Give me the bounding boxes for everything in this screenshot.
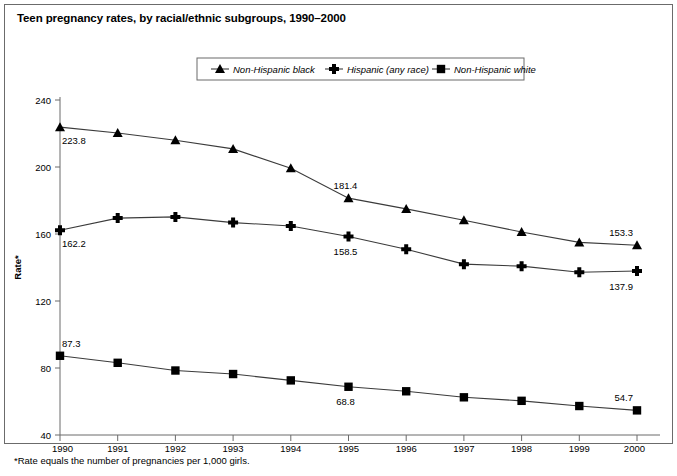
y-tick-label: 160 xyxy=(35,229,51,240)
x-tick-label: 1999 xyxy=(569,443,590,454)
data-point-star-marker xyxy=(517,261,527,271)
data-point-label: 153.3 xyxy=(609,227,633,238)
data-point-square-marker xyxy=(171,366,179,374)
data-point-label: 158.5 xyxy=(334,246,358,257)
x-tick-label: 1994 xyxy=(280,443,301,454)
legend-label: Hispanic (any race) xyxy=(347,64,429,75)
x-tick-label: 1990 xyxy=(52,443,73,454)
x-tick-label: 1996 xyxy=(396,443,417,454)
data-point-label: 223.8 xyxy=(62,135,86,146)
x-tick-label: 1995 xyxy=(338,443,359,454)
chart-plot-area: 2402001601208040Rate*1990199119921993199… xyxy=(0,0,677,476)
data-point-star-marker xyxy=(113,213,123,223)
data-point-label: 162.2 xyxy=(62,238,86,249)
data-point-star-marker xyxy=(228,218,238,228)
data-point-label: 68.8 xyxy=(336,396,355,407)
x-tick-label: 1991 xyxy=(107,443,128,454)
data-point-square-marker xyxy=(287,376,295,384)
data-point-square-marker xyxy=(633,406,641,414)
legend-label: Non-Hispanic black xyxy=(233,64,316,75)
data-point-star-marker xyxy=(170,212,180,222)
y-tick-label: 80 xyxy=(40,363,51,374)
y-tick-label: 120 xyxy=(35,296,51,307)
data-point-star-marker xyxy=(574,267,584,277)
data-point-star-marker xyxy=(632,266,642,276)
data-point-star-marker xyxy=(344,232,354,242)
x-tick-label: 1993 xyxy=(223,443,244,454)
data-point-label: 137.9 xyxy=(609,281,633,292)
y-tick-label: 40 xyxy=(40,430,51,441)
data-point-triangle-marker xyxy=(55,122,65,131)
data-point-label: 87.3 xyxy=(62,338,81,349)
data-point-square-marker xyxy=(402,387,410,395)
data-point-star-marker xyxy=(286,221,296,231)
legend-label: Non-Hispanic white xyxy=(454,64,536,75)
data-point-square-marker xyxy=(517,397,525,405)
x-tick-label: 1997 xyxy=(453,443,474,454)
data-point-label: 54.7 xyxy=(615,392,634,403)
y-tick-label: 200 xyxy=(35,162,51,173)
chart-figure: Teen pregnancy rates, by racial/ethnic s… xyxy=(0,0,677,476)
y-axis-title: Rate* xyxy=(12,255,23,280)
data-point-triangle-marker xyxy=(286,163,296,172)
x-tick-label: 2000 xyxy=(624,443,645,454)
legend-square-marker xyxy=(437,65,445,73)
data-point-star-marker xyxy=(459,259,469,269)
chart-footnote: *Rate equals the number of pregnancies p… xyxy=(14,455,250,466)
x-tick-label: 1992 xyxy=(165,443,186,454)
data-point-square-marker xyxy=(575,402,583,410)
data-point-label: 181.4 xyxy=(334,180,358,191)
data-point-square-marker xyxy=(344,383,352,391)
data-point-square-marker xyxy=(460,393,468,401)
data-point-star-marker xyxy=(401,244,411,254)
data-point-square-marker xyxy=(56,352,64,360)
data-point-square-marker xyxy=(229,370,237,378)
x-tick-label: 1998 xyxy=(511,443,532,454)
y-tick-label: 240 xyxy=(35,95,51,106)
data-point-square-marker xyxy=(114,359,122,367)
data-point-triangle-marker xyxy=(344,193,354,202)
